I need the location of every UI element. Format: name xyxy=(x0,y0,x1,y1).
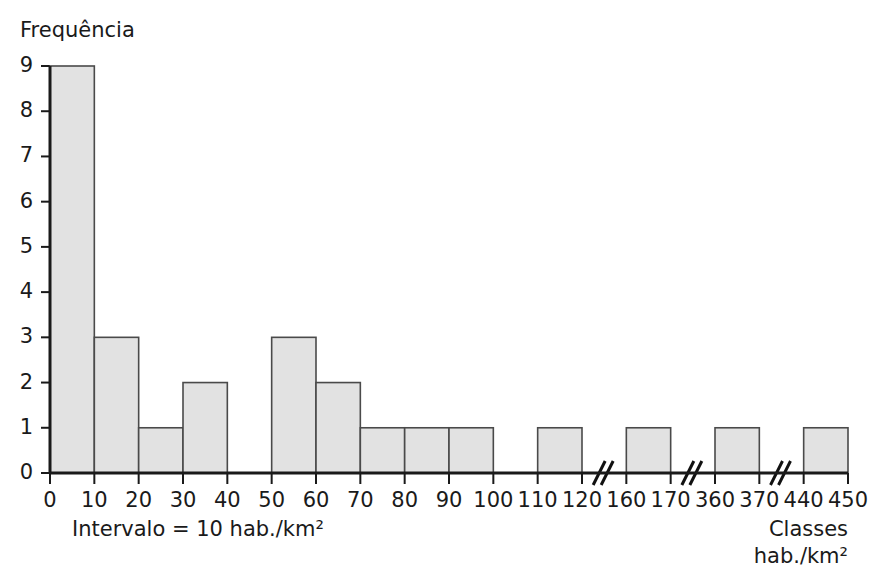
bar-440-450 xyxy=(804,428,848,473)
interval-note: Intervalo = 10 hab./km² xyxy=(72,517,324,541)
x-tick-label-370: 370 xyxy=(739,488,779,512)
bar-70-80 xyxy=(360,428,404,473)
bar-20-30 xyxy=(139,428,183,473)
bar-0-10 xyxy=(50,66,94,473)
x-tick-label-30: 30 xyxy=(170,488,197,512)
y-tick-label-7: 7 xyxy=(20,143,33,167)
bar-110-120 xyxy=(538,428,582,473)
y-tick-label-5: 5 xyxy=(20,234,33,258)
x-tick-label-50: 50 xyxy=(258,488,285,512)
x-tick-label-160: 160 xyxy=(606,488,646,512)
x-tick-label-450: 450 xyxy=(828,488,868,512)
bars-group xyxy=(50,66,848,473)
x-tick-label-20: 20 xyxy=(125,488,152,512)
histogram-svg: Frequência 0123456789 010203040506070809… xyxy=(0,0,870,580)
bar-50-60 xyxy=(272,337,316,473)
y-axis-title: Frequência xyxy=(20,18,135,42)
y-tick-label-2: 2 xyxy=(20,370,33,394)
bar-10-20 xyxy=(94,337,138,473)
bar-30-40 xyxy=(183,383,227,473)
x-tick-label-70: 70 xyxy=(347,488,374,512)
x-tick-label-110: 110 xyxy=(518,488,558,512)
y-axis-ticks: 0123456789 xyxy=(20,53,50,484)
bar-60-70 xyxy=(316,383,360,473)
histogram-chart: Frequência 0123456789 010203040506070809… xyxy=(0,0,870,580)
y-tick-label-3: 3 xyxy=(20,324,33,348)
x-tick-label-10: 10 xyxy=(81,488,108,512)
bar-80-90 xyxy=(405,428,449,473)
x-tick-label-90: 90 xyxy=(436,488,463,512)
x-tick-label-80: 80 xyxy=(391,488,418,512)
x-tick-label-440: 440 xyxy=(784,488,824,512)
x-tick-label-40: 40 xyxy=(214,488,241,512)
x-tick-label-100: 100 xyxy=(473,488,513,512)
x-tick-label-360: 360 xyxy=(695,488,735,512)
bar-360-370 xyxy=(715,428,759,473)
y-tick-label-1: 1 xyxy=(20,415,33,439)
x-tick-label-170: 170 xyxy=(651,488,691,512)
x-tick-label-0: 0 xyxy=(43,488,56,512)
y-tick-label-4: 4 xyxy=(20,279,33,303)
x-tick-label-120: 120 xyxy=(562,488,602,512)
x-axis-unit: hab./km² xyxy=(754,544,848,568)
bar-160-170 xyxy=(626,428,670,473)
x-tick-label-60: 60 xyxy=(303,488,330,512)
y-tick-label-8: 8 xyxy=(20,98,33,122)
x-axis-title: Classes xyxy=(769,517,848,541)
bar-90-100 xyxy=(449,428,493,473)
y-tick-label-6: 6 xyxy=(20,189,33,213)
y-tick-label-0: 0 xyxy=(20,460,33,484)
x-axis-ticks: 0102030405060708090100110120160170360370… xyxy=(43,473,868,512)
y-tick-label-9: 9 xyxy=(20,53,33,77)
